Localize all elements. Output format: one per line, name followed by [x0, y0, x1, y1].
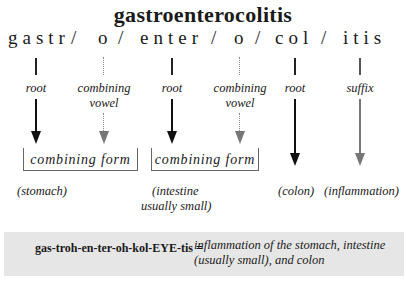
dotted-arrow-icon [103, 113, 104, 133]
connector-dotted-line [239, 57, 240, 75]
separator: / [118, 27, 123, 49]
arrow-down-icon [35, 99, 37, 133]
arrow-down-icon [171, 99, 173, 133]
separator: / [321, 27, 326, 49]
definition-line-1: inflammation of the stomach, intestine [194, 238, 385, 253]
connector-line [294, 58, 296, 75]
combining-form-bracket: combining form [23, 148, 138, 171]
arrow-head-icon [290, 153, 300, 166]
dotted-arrow-icon [239, 113, 240, 133]
word-part-col: col [275, 27, 313, 49]
separator: / [211, 27, 216, 49]
definition-line-2: (usually small), and colon [194, 253, 385, 268]
meaning-colon: (colon) [278, 184, 314, 199]
word-part-o-2: o [234, 27, 249, 49]
diagram-title: gastroenterocolitis [0, 2, 406, 28]
arrow-down-icon [294, 99, 296, 155]
arrow-head-icon [99, 131, 109, 144]
separator: / [71, 27, 76, 49]
connector-line [171, 58, 173, 75]
pronunciation: gas-troh-en-ter-oh-kol-EYE-tis = [35, 241, 203, 256]
meaning-inflammation: (inflammation) [324, 184, 399, 199]
connector-dotted-line [103, 57, 104, 75]
separator: / [255, 27, 260, 49]
arrow-head-icon [355, 153, 365, 166]
word-part-gastr: gastr [8, 27, 70, 49]
connector-line [359, 58, 361, 75]
word-part-itis: itis [343, 27, 386, 49]
arrow-head-icon [235, 131, 245, 144]
meaning-intestine: (intestine [152, 184, 199, 199]
definition: inflammation of the stomach, intestine (… [194, 238, 385, 268]
word-part-o-1: o [98, 27, 113, 49]
arrow-head-icon [167, 131, 177, 144]
label-vowel: vowel [200, 96, 280, 111]
arrow-down-icon [359, 99, 361, 155]
word-part-enter: enter [140, 27, 203, 49]
meaning-stomach: (stomach) [17, 184, 67, 199]
arrow-head-icon [31, 131, 41, 144]
label-suffix: suffix [320, 81, 400, 96]
meaning-intestine-2: usually small) [141, 199, 211, 214]
combining-form-bracket: combining form [151, 148, 259, 171]
label-vowel: vowel [64, 96, 144, 111]
connector-line [35, 58, 37, 75]
